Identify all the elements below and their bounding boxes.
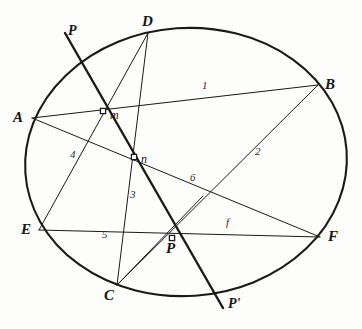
point-label-E: E bbox=[21, 222, 31, 237]
geometry-figure: ABCDEFmnPPP'123456f bbox=[0, 0, 362, 329]
pole-label-P-upper: P bbox=[68, 24, 77, 38]
conic-outline bbox=[16, 17, 356, 307]
marker-m bbox=[100, 108, 105, 113]
line-number-6: 6 bbox=[190, 172, 196, 183]
point-label-A: A bbox=[13, 110, 23, 125]
line-number-3: 3 bbox=[130, 189, 136, 200]
line-number-f: f bbox=[226, 217, 229, 228]
point-label-F: F bbox=[328, 229, 338, 244]
ellipse-outline bbox=[16, 17, 356, 307]
line-number-5: 5 bbox=[102, 229, 108, 240]
line-number-1: 1 bbox=[202, 80, 208, 91]
polar-line bbox=[65, 33, 223, 308]
point-label-B: B bbox=[325, 77, 335, 92]
chord-DE bbox=[39, 33, 148, 230]
chord-AF bbox=[32, 118, 320, 237]
line-number-2: 2 bbox=[255, 146, 261, 157]
line-number-4: 4 bbox=[70, 149, 76, 160]
point-label-n: n bbox=[141, 153, 147, 165]
pole-label-P-lower: P' bbox=[228, 297, 240, 311]
point-markers bbox=[100, 108, 174, 240]
point-label-C: C bbox=[104, 288, 114, 303]
marker-n bbox=[131, 154, 136, 159]
polar-line-polar-PP bbox=[65, 33, 223, 308]
figure-canvas bbox=[0, 0, 362, 329]
point-label-m: m bbox=[110, 109, 119, 121]
chord-AB bbox=[32, 85, 318, 118]
chord-BP bbox=[117, 85, 318, 285]
point-label-P: P bbox=[166, 241, 175, 256]
point-label-D: D bbox=[142, 14, 153, 29]
chord-CP bbox=[117, 196, 203, 285]
